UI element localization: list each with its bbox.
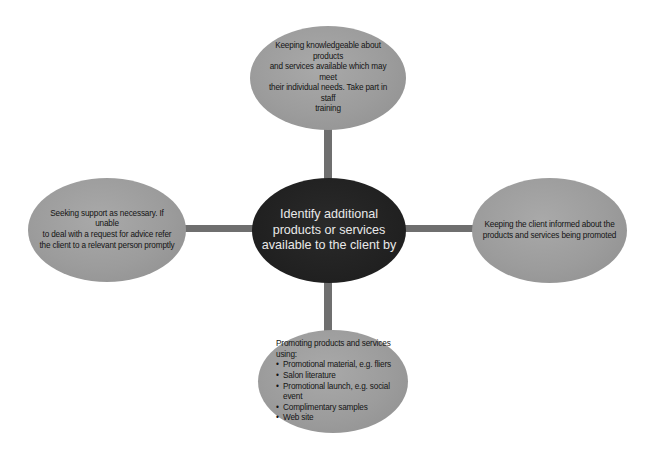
node-center-line: available to the client by — [262, 238, 396, 254]
list-item: Complimentary samples — [276, 403, 394, 414]
node-center-text: Identify additional products or services… — [262, 207, 396, 254]
list-item: Web site — [276, 413, 394, 424]
node-left-seeking-support: Seeking support as necessary. If unable … — [28, 178, 186, 282]
connector-bottom — [324, 281, 332, 332]
node-right-keeping-client-informed: Keeping the client informed about the pr… — [472, 178, 627, 283]
node-center-line: Identify additional — [262, 207, 396, 223]
node-top-staff-knowledge: Keeping knowledgeable about products and… — [250, 26, 406, 130]
node-left-text: Seeking support as necessary. If unable … — [38, 209, 176, 251]
node-bottom-lead: Promoting products and services using: — [276, 339, 394, 360]
node-right-line: Keeping the client informed about the — [483, 220, 616, 231]
connector-left — [183, 225, 255, 232]
node-top-line: training — [262, 104, 394, 115]
node-center-line: products or services — [262, 223, 396, 239]
list-item: Promotional launch, e.g. social event — [276, 382, 394, 403]
node-top-line: and services available which may meet — [262, 62, 394, 83]
node-top-line: their individual needs. Take part in sta… — [262, 83, 394, 104]
list-item: Salon literature — [276, 371, 394, 382]
node-left-line: the client to a relevant person promptly — [38, 241, 176, 252]
node-left-line: Seeking support as necessary. If unable — [38, 209, 176, 230]
node-center-identify-products: Identify additional products or services… — [252, 178, 406, 283]
node-top-line: Keeping knowledgeable about products — [262, 41, 394, 62]
node-bottom-content: Promoting products and services using: P… — [276, 339, 394, 424]
node-right-line: products and services being promoted — [483, 231, 616, 242]
node-bottom-promoting-products: Promoting products and services using: P… — [258, 330, 408, 433]
connector-right — [402, 225, 474, 232]
node-top-text: Keeping knowledgeable about products and… — [262, 41, 394, 115]
connector-top — [324, 128, 332, 180]
list-item: Promotional material, e.g. fliers — [276, 360, 394, 371]
node-right-text: Keeping the client informed about the pr… — [483, 220, 616, 241]
node-left-line: to deal with a request for advice refer — [38, 230, 176, 241]
promotion-methods-list: Promotional material, e.g. fliers Salon … — [276, 360, 394, 424]
